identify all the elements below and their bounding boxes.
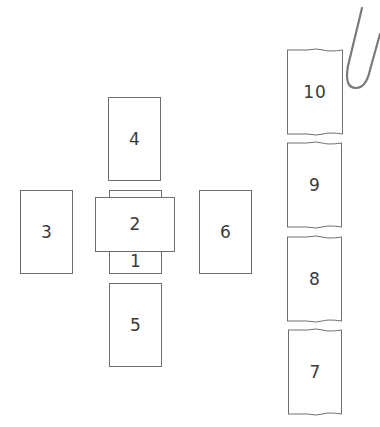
card-8: 8 <box>287 237 342 321</box>
card-1-label: 1 <box>130 253 141 270</box>
wavy-edge-top <box>287 47 343 53</box>
card-10: 10 <box>287 50 343 134</box>
card-9: 9 <box>287 143 342 227</box>
wavy-edge-top <box>288 327 342 333</box>
wavy-edge-top <box>287 140 342 146</box>
wavy-edge-bottom <box>287 131 343 137</box>
card-6-label: 6 <box>220 224 231 241</box>
card-3: 3 <box>20 190 73 274</box>
card-5: 5 <box>109 283 162 367</box>
card-2-label: 2 <box>130 216 141 233</box>
card-10-label: 10 <box>303 84 327 101</box>
wavy-edge-bottom <box>288 411 342 417</box>
card-7: 7 <box>288 330 342 414</box>
card-9-label: 9 <box>309 177 320 194</box>
card-3-label: 3 <box>41 224 52 241</box>
paperclip-icon <box>340 4 380 94</box>
card-4-label: 4 <box>129 131 140 148</box>
card-8-label: 8 <box>309 271 320 288</box>
card-4: 4 <box>108 97 161 181</box>
card-5-label: 5 <box>130 317 141 334</box>
wavy-edge-bottom <box>287 318 342 324</box>
wavy-edge-bottom <box>287 224 342 230</box>
card-6: 6 <box>199 190 252 274</box>
card-2: 2 <box>95 197 175 252</box>
wavy-edge-top <box>287 234 342 240</box>
card-7-label: 7 <box>310 364 321 381</box>
